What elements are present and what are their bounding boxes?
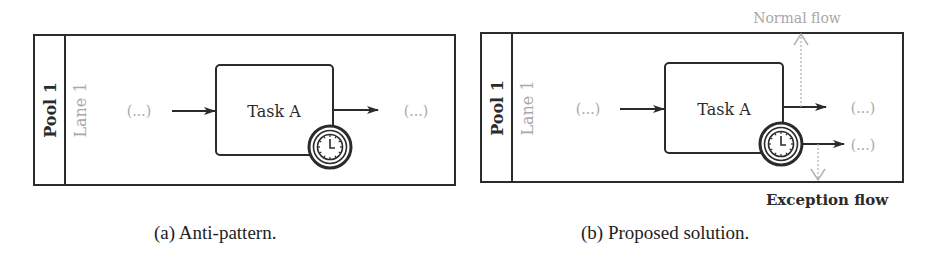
left-ellipsis: (...)	[127, 103, 151, 119]
pool-label: Pool 1	[488, 80, 507, 136]
right-ellipsis-top: (...)	[851, 100, 875, 116]
diagram-canvas: Pool 1 Lane 1 (...) Task A (...) Pool 1 …	[0, 0, 930, 270]
caption-b: (b) Proposed solution.	[581, 222, 749, 244]
timer-clock-icon	[309, 126, 351, 168]
lane-label: Lane 1	[518, 80, 537, 135]
pool-label: Pool 1	[41, 82, 60, 138]
right-ellipsis-bottom: (...)	[851, 137, 875, 153]
right-ellipsis: (...)	[404, 103, 428, 119]
timer-clock-icon	[760, 123, 802, 165]
normal-flow-pointer-arrowhead	[794, 34, 808, 45]
exception-flow-pointer-arrowhead	[811, 169, 825, 180]
task-label: Task A	[247, 102, 301, 121]
exception-flow-label: Exception flow	[766, 191, 889, 209]
normal-flow-label: Normal flow	[753, 10, 841, 26]
lane-label: Lane 1	[71, 82, 90, 137]
caption-a: (a) Anti-pattern.	[154, 222, 276, 244]
panel-b-proposed-solution: Pool 1 Lane 1 (...) Task A (...) Normal …	[481, 10, 903, 209]
task-label: Task A	[697, 100, 751, 119]
panel-a-anti-pattern: Pool 1 Lane 1 (...) Task A (...)	[34, 35, 455, 185]
left-ellipsis: (...)	[576, 101, 600, 117]
